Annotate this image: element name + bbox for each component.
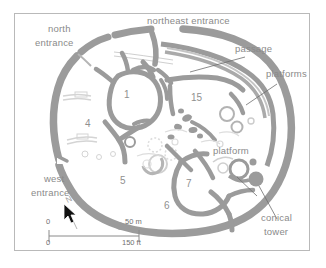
map-frame: north entrance northeast entrance passag… <box>14 13 310 251</box>
enclosure-6-wall-south <box>229 214 232 230</box>
label-enclosure-1: 1 <box>124 89 130 100</box>
faint-ruin-s2 <box>165 130 187 132</box>
faint-wall-c <box>67 137 97 140</box>
outer-wall-west <box>54 56 77 160</box>
label-platforms: platforms <box>266 68 307 79</box>
label-west-entrance-line1: west <box>44 173 64 184</box>
outer-wall-north-segment <box>115 29 151 35</box>
hut-circle-ne-1 <box>220 107 234 121</box>
rubble-6 <box>197 134 203 139</box>
hut-circle-center-2 <box>148 138 162 152</box>
enclosure-1-spur-west <box>96 69 112 81</box>
rubble-4 <box>168 135 175 140</box>
scale-imperial-max: 150 ft <box>122 238 141 247</box>
scale-metric-zero: 0 <box>46 217 50 226</box>
label-northeast-entrance: northeast entrance <box>147 15 230 26</box>
small-tower <box>250 159 257 166</box>
mouse-cursor <box>63 203 79 225</box>
label-enclosure-7: 7 <box>186 178 192 189</box>
platform-arc <box>213 157 233 162</box>
faint-hut-c <box>111 152 116 157</box>
label-enclosure-15: 15 <box>191 92 202 103</box>
platform-circle-large <box>230 160 248 178</box>
enclosure-15-wall-w <box>170 86 173 114</box>
label-passage: passage <box>235 43 272 54</box>
faint-wall-d <box>67 141 97 144</box>
hut-circle-ne-2 <box>232 122 243 133</box>
label-enclosure-5: 5 <box>120 175 126 186</box>
label-north-entrance-line2: entrance <box>35 37 74 48</box>
label-conical-tower-line1: conical <box>261 212 292 223</box>
platform-and-tower-group <box>213 157 264 186</box>
enclosure-7-spur-east <box>229 190 253 196</box>
rubble-3 <box>188 126 198 133</box>
faint-wall-b <box>63 99 91 101</box>
rubble-5 <box>178 109 184 114</box>
map-screenshot: north entrance northeast entrance passag… <box>0 0 326 268</box>
enclosure-1-wall <box>109 72 160 129</box>
conical-tower <box>249 172 264 187</box>
faint-hut-b <box>97 155 102 160</box>
hut-circle-ne-3 <box>248 118 254 124</box>
faint-hut-s2 <box>172 139 178 145</box>
outer-wall-northwest <box>81 37 108 52</box>
cursor-arrow-icon <box>64 204 76 223</box>
scale-imperial-zero: 0 <box>46 238 50 247</box>
label-platform: platform <box>213 145 249 156</box>
north-entrance-gap-wall <box>78 54 91 66</box>
faint-hut-a <box>82 151 88 157</box>
label-conical-tower-line2: tower <box>264 226 288 237</box>
ne-entrance-wall-1 <box>152 33 156 64</box>
label-enclosure-4: 4 <box>85 118 91 129</box>
label-enclosure-6: 6 <box>164 200 170 211</box>
hut-circle-center-1 <box>125 137 135 147</box>
scale-metric-max: 50 m <box>125 217 142 226</box>
label-north-entrance-line1: north <box>48 23 71 34</box>
platform-circle-small <box>218 163 228 173</box>
west-entrance-group <box>57 157 67 164</box>
enclosure-1-spur-north <box>122 53 128 71</box>
enclosure-7-wall-ring <box>174 162 229 214</box>
passage-outer-curve <box>165 52 265 118</box>
enclosure-15-wall-n <box>167 77 243 90</box>
